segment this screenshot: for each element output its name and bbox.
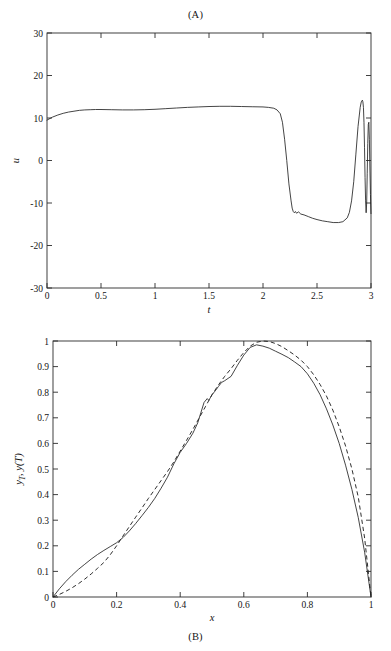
panel-b-ytick-9: 0.9 [37, 362, 49, 372]
panel-b-ylabel: yT, y(T) [13, 453, 27, 486]
panel-a-plot: 30 20 10 0 -10 -20 -30 0 [0, 0, 391, 325]
panel-b-xtick-0: 0 [51, 600, 56, 610]
panel-b-axes-frame [53, 341, 371, 597]
panel-b-ytick-5: 0.5 [37, 465, 49, 475]
panel-b-ytick-10: 1 [44, 337, 49, 347]
panel-a-xtick-1: 0.5 [95, 291, 107, 301]
panel-b-ytick-1: 0.1 [37, 567, 49, 577]
panel-a-control-curve [47, 100, 371, 222]
panel-b-xtick-2: 0.4 [174, 600, 186, 610]
panel-b-ytick-0: 0 [44, 593, 49, 603]
panel-a-y-ticks [47, 33, 371, 288]
panel-a-ylabel: u [10, 158, 21, 163]
panel-b-plot: 1 0.9 0.8 0.7 0.6 0.5 0.4 0.3 0.2 0.1 0 [0, 325, 391, 651]
panel-b-ylabel-paren: (T) [13, 453, 25, 466]
panel-a-ytick-1: 20 [34, 71, 44, 81]
panel-a-ytick-3: 0 [38, 156, 43, 166]
figure-container: (A) 30 20 10 0 [0, 0, 391, 651]
panel-a-ytick-0: 30 [34, 29, 44, 39]
panel-a-xlabel: t [208, 304, 212, 315]
svg-text:yT, y(T): yT, y(T) [13, 453, 27, 486]
panel-a-ytick-5: -20 [30, 241, 43, 251]
panel-b-state-curve [53, 345, 371, 597]
panel-a-axes-frame [47, 33, 371, 288]
panel-b-ytick-3: 0.3 [37, 516, 49, 526]
panel-b-ytick-8: 0.8 [37, 388, 49, 398]
panel-b-ytick-7: 0.7 [37, 413, 49, 423]
panel-a-xtick-4: 2 [261, 291, 266, 301]
panel-a-xtick-0: 0 [45, 291, 50, 301]
panel-a: (A) 30 20 10 0 [0, 0, 391, 325]
panel-b-xtick-3: 0.6 [238, 600, 250, 610]
panel-b-ytick-4: 0.4 [37, 490, 49, 500]
panel-b-x-ticks [53, 341, 371, 597]
panel-b-caption: (B) [0, 631, 391, 642]
panel-b-ytick-6: 0.6 [37, 439, 49, 449]
panel-a-ytick-2: 10 [34, 114, 44, 124]
panel-b-xtick-5: 1 [369, 600, 374, 610]
panel-b-xlabel: x [209, 612, 215, 623]
panel-b-ytick-2: 0.2 [37, 541, 49, 551]
panel-b-xtick-1: 0.2 [111, 600, 123, 610]
panel-b-xtick-4: 0.8 [301, 600, 313, 610]
panel-b: (B) [0, 325, 391, 651]
panel-a-xtick-6: 3 [369, 291, 374, 301]
panel-a-xtick-5: 2.5 [311, 291, 323, 301]
panel-b-target-curve [53, 341, 371, 597]
panel-b-y-ticks [53, 341, 371, 597]
panel-a-x-ticks [47, 33, 371, 288]
panel-a-caption: (A) [0, 9, 391, 20]
panel-a-ytick-4: -10 [30, 199, 43, 209]
panel-a-xtick-2: 1 [153, 291, 158, 301]
panel-a-ytick-6: -30 [30, 284, 43, 294]
panel-a-xtick-3: 1.5 [203, 291, 215, 301]
